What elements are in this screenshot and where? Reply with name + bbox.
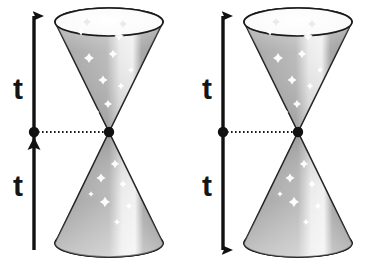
past-light-cone bbox=[55, 132, 163, 257]
light-cone-figure: tttt bbox=[0, 0, 369, 265]
future-light-cone bbox=[55, 8, 163, 132]
past-cone-shading bbox=[55, 132, 163, 257]
upper-time-label: t bbox=[13, 72, 23, 105]
future-cone-rim bbox=[55, 8, 163, 36]
future-light-cone bbox=[244, 8, 352, 132]
figure-canvas: tttt bbox=[0, 0, 369, 265]
past-cone-shading bbox=[244, 132, 352, 257]
upper-time-label: t bbox=[202, 72, 212, 105]
light-cone-left: tt bbox=[13, 8, 163, 257]
event-apex-dot bbox=[293, 127, 303, 137]
past-light-cone bbox=[244, 132, 352, 257]
light-cone-right: tt bbox=[202, 8, 352, 257]
event-apex-dot bbox=[104, 127, 114, 137]
future-cone-rim bbox=[244, 8, 352, 36]
lower-time-label: t bbox=[13, 169, 23, 202]
lower-time-label: t bbox=[202, 169, 212, 202]
